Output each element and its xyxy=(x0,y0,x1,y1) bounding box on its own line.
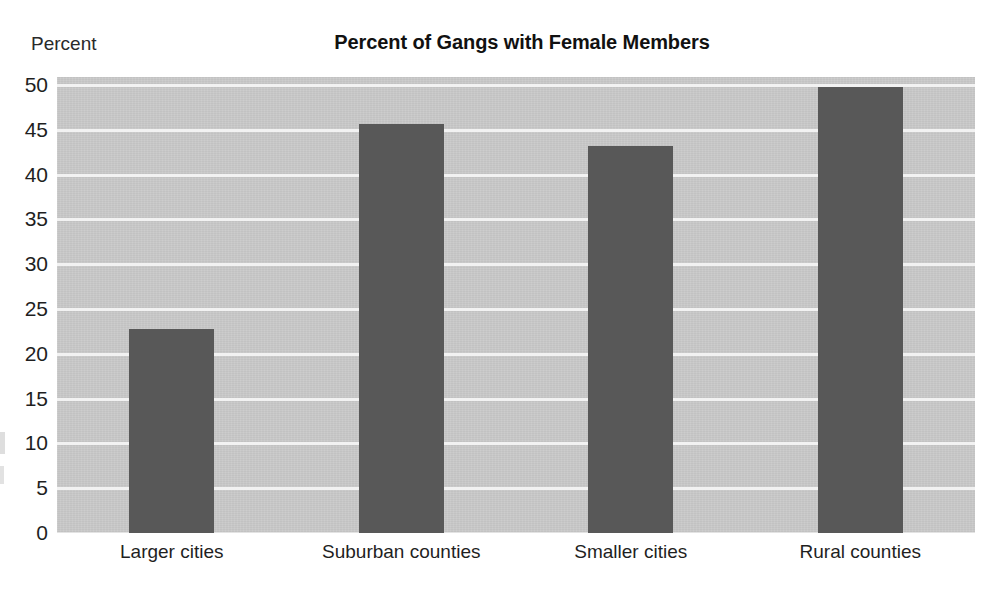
y-tick-label: 45 xyxy=(2,119,48,140)
bar xyxy=(818,87,903,533)
y-tick-label: 20 xyxy=(2,343,48,364)
y-tick-label: 25 xyxy=(2,298,48,319)
y-tick-label: 15 xyxy=(2,388,48,409)
bar xyxy=(129,329,214,533)
bar xyxy=(588,146,673,533)
x-tick-label: Rural counties xyxy=(746,541,976,563)
y-tick-label: 5 xyxy=(2,477,48,498)
x-tick-label: Smaller cities xyxy=(516,541,746,563)
y-tick-label: 40 xyxy=(2,164,48,185)
bar-chart-figure: Percent of Gangs with Female Members Per… xyxy=(0,0,1001,589)
plot-area xyxy=(57,77,975,533)
chart-title: Percent of Gangs with Female Members xyxy=(287,31,757,54)
y-tick-label: 30 xyxy=(2,253,48,274)
x-tick-label: Suburban counties xyxy=(287,541,517,563)
y-tick-label: 10 xyxy=(2,432,48,453)
x-tick-label: Larger cities xyxy=(57,541,287,563)
y-tick-label: 35 xyxy=(2,208,48,229)
y-axis-ticks: 50454035302520151050 xyxy=(0,0,48,589)
y-tick-label: 0 xyxy=(2,522,48,543)
y-tick-label: 50 xyxy=(2,74,48,95)
bar xyxy=(359,124,444,533)
